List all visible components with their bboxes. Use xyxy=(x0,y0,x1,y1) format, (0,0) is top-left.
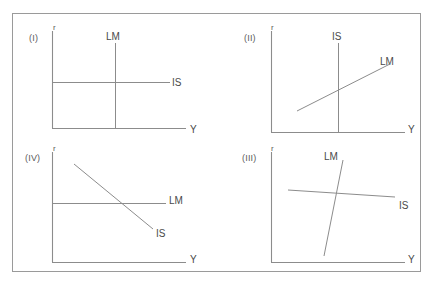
panel-three-plot xyxy=(218,144,422,273)
panel-four-is-curve xyxy=(74,164,153,229)
figure-page: (I) r LM IS Y (II) r IS LM Y xyxy=(0,0,434,286)
panel-four-plot xyxy=(13,144,213,273)
panel-three-lm-curve xyxy=(324,160,343,256)
panel-two-lm-curve xyxy=(297,64,390,111)
figure-outer-border: (I) r LM IS Y (II) r IS LM Y xyxy=(12,13,421,272)
panel-three-is-curve xyxy=(288,190,395,197)
panel-four: (IV) r LM IS Y xyxy=(13,144,213,273)
panel-two: (II) r IS LM Y xyxy=(218,14,422,144)
panel-one: (I) r LM IS Y xyxy=(13,14,213,144)
panel-two-plot xyxy=(218,14,422,144)
panel-one-plot xyxy=(13,14,213,144)
panel-three: (III) r LM IS Y xyxy=(218,144,422,273)
